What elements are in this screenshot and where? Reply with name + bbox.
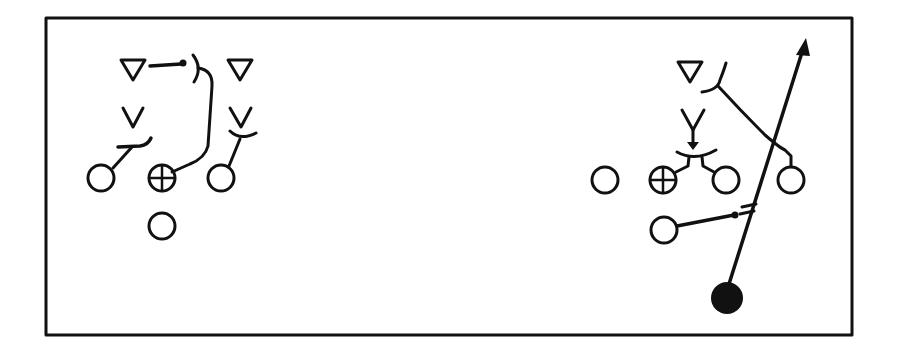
defender-triangle-icon [121, 60, 145, 80]
defender-triangle-icon [678, 62, 702, 82]
offense-player-icon [713, 167, 739, 193]
back-player-icon [651, 217, 677, 243]
right-formation [592, 38, 810, 314]
block-line [113, 147, 132, 168]
arrowhead-icon [687, 142, 699, 150]
play-diagram [0, 0, 899, 347]
block-dot-icon [732, 212, 739, 219]
block-mark-icon [118, 138, 151, 147]
center-player-icon [650, 167, 676, 193]
back-player-icon [149, 213, 175, 239]
offense-player-icon [778, 167, 804, 193]
route-arrow-line [729, 46, 804, 284]
block-dot-icon [180, 60, 187, 67]
offense-player-icon [208, 165, 234, 191]
pull-route-line [172, 68, 212, 172]
defender-v-icon [682, 110, 704, 130]
left-formation [88, 55, 256, 239]
block-line [677, 215, 734, 226]
block-line [150, 64, 181, 66]
ball-carrier-icon [711, 282, 743, 314]
center-player-icon [149, 165, 175, 191]
block-line [676, 157, 689, 172]
offense-player-icon [592, 167, 618, 193]
block-bracket-icon [702, 63, 726, 92]
offense-player-icon [88, 165, 114, 191]
arrowhead-icon [796, 38, 810, 56]
block-line [229, 139, 240, 166]
block-mark-icon [677, 150, 716, 157]
defender-v-icon [230, 108, 251, 127]
block-mark-icon [230, 131, 256, 137]
defender-triangle-icon [228, 60, 252, 80]
block-line [702, 157, 714, 172]
defender-v-icon [123, 108, 143, 127]
